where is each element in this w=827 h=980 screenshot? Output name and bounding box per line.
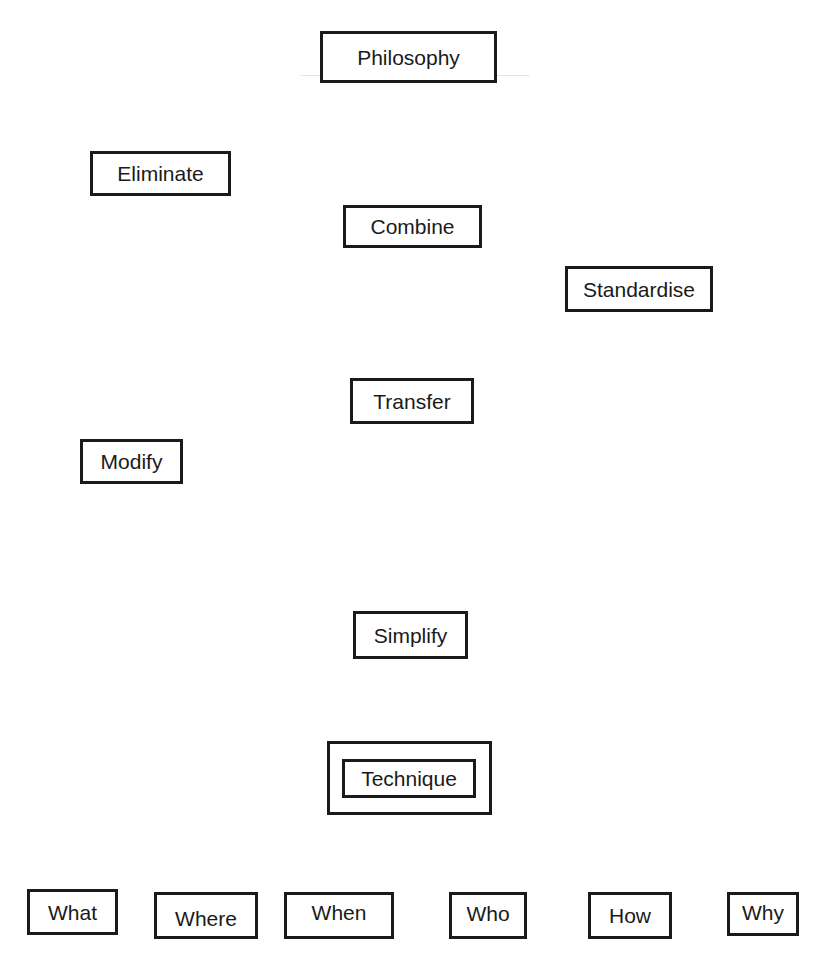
node-where: Where bbox=[154, 892, 258, 939]
node-why: Why bbox=[727, 892, 799, 936]
node-label: Philosophy bbox=[357, 47, 460, 68]
node-label: Who bbox=[466, 903, 509, 924]
node-transfer: Transfer bbox=[350, 378, 474, 424]
node-label: When bbox=[312, 902, 367, 923]
node-label: Simplify bbox=[374, 625, 448, 646]
node-eliminate: Eliminate bbox=[90, 151, 231, 196]
node-label: Standardise bbox=[583, 279, 695, 300]
node-label: Combine bbox=[370, 216, 454, 237]
node-standardise: Standardise bbox=[565, 266, 713, 312]
node-label: Eliminate bbox=[117, 163, 203, 184]
node-label: Where bbox=[175, 908, 237, 929]
node-who: Who bbox=[449, 892, 527, 939]
node-technique-outer: Technique bbox=[327, 741, 492, 815]
node-label: How bbox=[609, 905, 651, 926]
node-label: Transfer bbox=[373, 391, 450, 412]
node-how: How bbox=[588, 892, 672, 939]
node-when: When bbox=[284, 892, 394, 939]
node-label: Why bbox=[742, 902, 784, 923]
node-simplify: Simplify bbox=[353, 611, 468, 659]
node-combine: Combine bbox=[343, 205, 482, 248]
node-label: Modify bbox=[101, 451, 163, 472]
node-technique: Technique bbox=[342, 759, 476, 798]
node-modify: Modify bbox=[80, 439, 183, 484]
node-what: What bbox=[27, 889, 118, 935]
node-label: Technique bbox=[361, 768, 457, 789]
node-label: What bbox=[48, 902, 97, 923]
node-philosophy: Philosophy bbox=[320, 31, 497, 83]
